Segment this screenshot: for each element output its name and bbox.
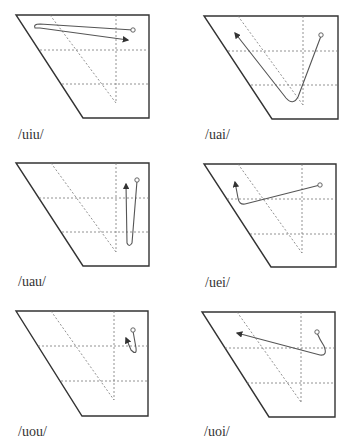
guide-lines [38, 311, 148, 400]
vowel-quadrilateral [16, 311, 148, 416]
panel-uai: /uai/ [175, 0, 347, 148]
start-point-icon [319, 33, 323, 37]
start-point-icon [315, 330, 319, 334]
guide-lines [227, 164, 336, 253]
panel-label: /uoi/ [204, 424, 230, 440]
trajectory-uiu [35, 24, 136, 40]
vowel-quadrilateral [202, 312, 335, 417]
vowel-chart-uei [175, 148, 347, 296]
vowel-quadrilateral [204, 164, 336, 267]
trajectory-uou [126, 328, 136, 353]
panel-uou: /uou/ [0, 296, 173, 444]
panel-label: /uau/ [18, 274, 46, 290]
guide-lines [228, 16, 338, 105]
vowel-quadrilateral [204, 16, 338, 119]
start-point-icon [318, 183, 322, 187]
panel-label: /uou/ [18, 424, 47, 440]
trajectory-uoi [237, 330, 325, 355]
panel-label: /uiu/ [18, 127, 44, 143]
vowel-quadrilateral [16, 15, 149, 118]
panel-label: /uai/ [205, 127, 230, 143]
trajectory-uei [235, 182, 322, 204]
guide-lines [225, 312, 335, 402]
start-point-icon [131, 28, 135, 32]
vowel-chart-uoi [175, 296, 347, 444]
panel-uei: /uei/ [175, 148, 347, 296]
panel-label: /uei/ [205, 275, 230, 291]
panel-uoi: /uoi/ [175, 296, 347, 444]
start-point-icon [131, 328, 135, 332]
vowel-chart-uiu [0, 0, 173, 148]
vowel-chart-uai [175, 0, 347, 148]
panel-uiu: /uiu/ [0, 0, 173, 148]
start-point-icon [135, 178, 139, 182]
panel-uau: /uau/ [0, 148, 173, 296]
vowel-chart-uou [0, 296, 173, 444]
trajectory-uau [126, 178, 139, 246]
trajectory-uai [235, 33, 323, 102]
vowel-quadrilateral [16, 163, 149, 266]
